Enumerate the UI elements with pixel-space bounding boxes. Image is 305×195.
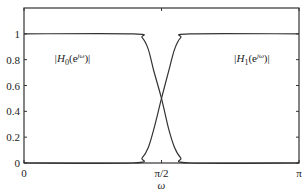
curve-label-h0: |H0(ejω)| (54, 52, 90, 67)
frequency-response-chart: 00.20.40.60.810π/2πω|H0(ejω)||H1(ejω)| (0, 0, 305, 195)
x-tick-label: π (296, 167, 302, 179)
plot-frame (24, 8, 299, 163)
y-tick-label: 0.2 (6, 131, 20, 143)
y-tick-label: 0.8 (6, 54, 20, 66)
curve-label-h1: |H1(ejω)| (233, 52, 269, 67)
x-tick-label: π/2 (154, 167, 168, 179)
axes (24, 8, 299, 163)
labels: 00.20.40.60.810π/2πω|H0(ejω)||H1(ejω)| (6, 28, 302, 191)
y-tick-label: 0.4 (6, 105, 20, 117)
y-tick-label: 0.6 (6, 80, 20, 92)
x-axis-label: ω (158, 179, 166, 191)
y-tick-label: 0 (15, 157, 21, 169)
x-tick-label: 0 (21, 167, 27, 179)
y-tick-label: 1 (15, 28, 21, 40)
